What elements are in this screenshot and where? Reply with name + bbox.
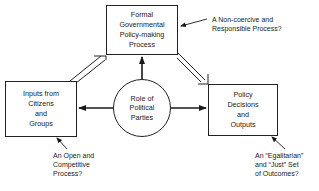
node-label-line: Formal [131,10,153,20]
node-label-line: Policy [233,90,252,100]
node-label-line: and [35,109,47,119]
annotation-line: Competitive [53,160,94,169]
node-label-line: Citizens [28,99,54,109]
annotation-line: An Open and [53,151,94,160]
annotation-line: Responsible Process? [212,24,282,33]
node-label-line: Process [129,40,155,50]
node-role-of-political-parties: Role of Political Parties [113,79,171,137]
node-label-line: Inputs from [23,89,59,99]
node-label-line: Parties [131,113,153,123]
node-policy-decisions-outputs: Policy Decisions and Outputs [208,84,278,136]
annotation-line: A Non-coercive and [212,15,282,24]
annotation-line: Process? [53,169,94,178]
node-label-line: Decisions [227,100,258,110]
node-label-line: Governmental [119,20,164,30]
node-label-line: Groups [29,119,53,129]
annotation-arrow-left [57,138,67,149]
node-label-line: and [237,110,249,120]
annotation-right: An “Egalitarian” and “Just” Set of Outco… [255,151,303,178]
flow-arrow-inputs-to-process [70,56,106,83]
node-label-line: Political [130,103,155,113]
annotation-line: and “Just” Set [255,160,303,169]
annotation-line: of Outcomes? [255,169,303,178]
annotation-arrow-right [272,137,285,149]
annotation-top: A Non-coercive and Responsible Process? [212,15,282,33]
annotation-left: An Open and Competitive Process? [53,151,94,178]
node-label-line: Policy-making [120,30,165,40]
node-formal-policy-process: Formal Governmental Policy-making Proces… [106,5,178,55]
node-label-line: Outputs [230,120,255,130]
flow-arrow-process-to-outputs [177,52,208,84]
node-label-line: Role of [131,94,154,104]
node-inputs-citizens-groups: Inputs from Citizens and Groups [5,81,77,137]
annotation-line: An “Egalitarian” [255,151,303,160]
annotation-arrow-top [181,19,207,26]
